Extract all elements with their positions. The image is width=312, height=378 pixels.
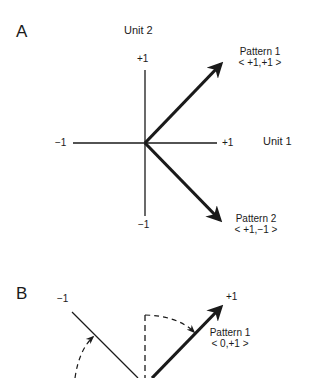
pattern-1-label: Pattern 1 < +1,+1 >: [230, 46, 290, 68]
b-tick-right: +1: [226, 291, 237, 302]
pattern-1-b-name: Pattern 1: [200, 327, 260, 338]
y-axis-title: Unit 2: [124, 24, 153, 36]
pattern-2-coords: < +1,−1 >: [226, 224, 286, 235]
pattern-1-b-label: Pattern 1 < 0,+1 >: [200, 327, 260, 349]
x-axis-title: Unit 1: [263, 135, 292, 147]
pattern-2-name: Pattern 2: [226, 213, 286, 224]
rotation-arc-right: [145, 315, 194, 332]
pattern-1-vector: [145, 64, 221, 143]
pattern-1-coords: < +1,+1 >: [230, 57, 290, 68]
pattern-1-name: Pattern 1: [230, 46, 290, 57]
x-tick-left: −1: [55, 137, 66, 148]
b-tick-left: −1: [57, 293, 68, 304]
pattern-2-vector: [145, 143, 220, 220]
rotation-arc-left: [75, 337, 93, 378]
x-tick-right: +1: [222, 137, 233, 148]
pattern-2-label: Pattern 2 < +1,−1 >: [226, 213, 286, 235]
pattern-1-b-coords: < 0,+1 >: [200, 338, 260, 349]
panel-b-axes: [72, 312, 145, 378]
y-tick-bottom: −1: [138, 219, 149, 230]
panel-a-label: A: [16, 22, 27, 42]
panel-b-label: B: [16, 284, 27, 304]
y-tick-top: +1: [137, 53, 148, 64]
